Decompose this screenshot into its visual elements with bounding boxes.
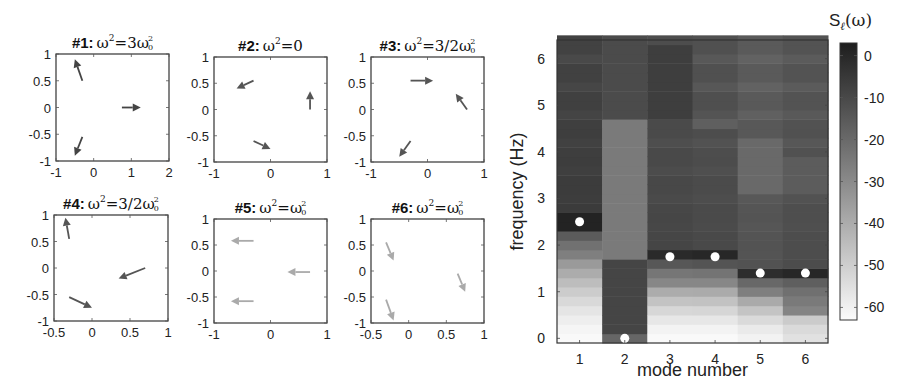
heatmap-cell [647,306,693,316]
peak-marker [711,252,720,261]
y-tick-label: 0 [359,264,366,279]
heatmap-cell [738,138,784,148]
heatmap-cell [602,259,648,269]
colorbar-tick-label: -50 [864,257,884,273]
heatmap-cell [557,250,603,260]
heatmap-cell [783,194,829,204]
heatmap-cell [647,278,693,288]
peak-marker [575,217,584,226]
heatmap-cell [557,157,603,167]
heatmap-cell [783,147,829,157]
heatmap-cell [602,91,648,101]
x-tick-label: 0 [267,166,274,181]
quiver-panel-2: #2:ω2=0-101-1-0.500.51 [187,36,331,181]
y-tick-label: 0.5 [348,238,366,253]
heatmap-cell [738,119,784,129]
heatmap-cell [738,129,784,139]
heatmap-cell [738,63,784,73]
heatmap-cell [738,101,784,111]
heatmap-cell [738,287,784,297]
y-tick-label: 0 [42,261,49,276]
axes-frame [56,54,169,161]
axes-frame [54,215,168,321]
x-tick-label: 0 [424,166,431,181]
heatmap-cell [602,73,648,83]
heatmap-cell [557,287,603,297]
heatmap-cell [783,73,829,83]
heatmap-cell [647,73,693,83]
x-tick-label: 6 [802,351,810,367]
heatmap-cell [783,82,829,92]
heatmap-cell [557,45,603,55]
heatmap-cell [602,222,648,232]
heatmap-cell [693,194,739,204]
heatmap-cell [557,203,603,213]
heatmap-cell [738,73,784,83]
heatmap-cell [647,240,693,250]
colorbar-tick-label: -60 [864,299,884,315]
heatmap-cell [647,91,693,101]
heatmap-cell [647,268,693,278]
heatmap-cell [693,166,739,176]
heatmap-cell [783,157,829,167]
heatmap-cell [693,175,739,185]
y-tick-label: 0.5 [191,238,209,253]
heatmap-cell [693,212,739,222]
heatmap-cell [647,222,693,232]
x-axis-label: mode number [637,360,748,380]
heatmap-cell [647,63,693,73]
peak-marker [801,269,810,278]
y-tick-label: -0.5 [27,288,49,303]
y-tick-label: 1 [359,50,366,65]
heatmap-cell [738,110,784,120]
heatmap-cell [783,54,829,64]
y-tick-label: -1 [354,155,366,170]
colorbar: 0-10-20-30-40-50-60Sℓ(ω) [829,10,884,320]
heatmap-cell [647,324,693,334]
heatmap-cell [783,315,829,325]
heatmap-cell [783,222,829,232]
y-tick-label: -0.5 [29,127,51,142]
heatmap-cell [738,222,784,232]
x-tick-label: 0.5 [121,325,139,340]
quiver-panel-6: #6:ω2=ω20-0.500.51-1-0.500.51 [344,198,488,342]
panel-title: #1:ω2=3ω20 [72,33,153,52]
heatmap-cell [647,138,693,148]
heatmap-cell [783,296,829,306]
heatmap-cell [602,54,648,64]
panel-title: #2:ω2=0 [238,36,303,55]
heatmap-cell [738,212,784,222]
y-tick-label: 6 [537,51,545,67]
heatmap-cell [557,240,603,250]
y-axis-label: frequency (Hz) [507,132,527,250]
y-tick-label: 1 [537,284,545,300]
heatmap-cell [738,147,784,157]
x-tick-label: 2 [165,165,172,180]
heatmap-cell [738,175,784,185]
y-tick-label: -0.5 [344,129,366,144]
heatmap-cell [647,175,693,185]
heatmap-cell [602,82,648,92]
y-tick-label: 0 [537,330,545,346]
heatmap-cell [738,157,784,167]
heatmap-cell [557,101,603,111]
heatmap-cell [602,147,648,157]
heatmap-cell [738,250,784,260]
heatmap-cell [783,287,829,297]
heatmap-cell [693,222,739,232]
heatmap-cell [738,278,784,288]
y-tick-label: -1 [39,154,51,169]
heatmap-cell [738,315,784,325]
x-tick-label: 0.5 [437,327,455,342]
x-tick-label: 0 [267,327,274,342]
quiver-panel-5: #5:ω2=ω20-101-1-0.500.51 [187,198,331,342]
heatmap-cell [693,63,739,73]
panel-title: #3:ω2=3/2ω20 [380,36,476,55]
colorbar-tick-label: -40 [864,215,884,231]
heatmap-cell [693,315,739,325]
heatmap-cell [647,203,693,213]
colorbar-tick-label: 0 [864,48,872,64]
heatmap-cell [783,250,829,260]
colorbar-tick-label: -20 [864,132,884,148]
heatmap-cell [693,119,739,129]
